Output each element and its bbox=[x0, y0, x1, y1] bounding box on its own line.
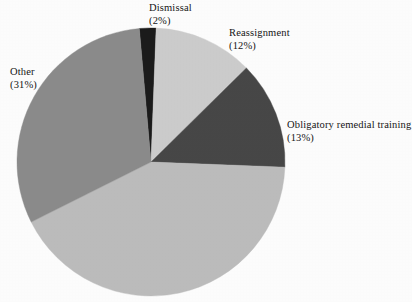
pie-label-reassignment-name: Reassignment bbox=[229, 27, 290, 40]
pie-label-dismissal-percent: (2%) bbox=[149, 15, 192, 28]
pie-label-other: Other (31%) bbox=[10, 66, 37, 91]
pie-slice-group bbox=[17, 28, 285, 296]
pie-label-other-percent: (31%) bbox=[10, 79, 37, 92]
pie-label-obligatory-remedial-training-percent: (13%) bbox=[287, 132, 411, 145]
pie-label-dismissal: Dismissal (2%) bbox=[149, 2, 192, 27]
pie-label-dismissal-name: Dismissal bbox=[149, 2, 192, 15]
pie-label-reassignment: Reassignment (12%) bbox=[229, 27, 290, 52]
pie-label-obligatory-remedial-training: Obligatory remedial training (13%) bbox=[287, 119, 411, 144]
pie-label-other-name: Other bbox=[10, 66, 37, 79]
pie-label-obligatory-remedial-training-name: Obligatory remedial training bbox=[287, 119, 411, 132]
pie-chart-canvas bbox=[0, 0, 412, 302]
pie-chart-figure: Dismissal (2%) Reassignment (12%) Obliga… bbox=[0, 0, 412, 302]
pie-label-reassignment-percent: (12%) bbox=[229, 40, 290, 53]
